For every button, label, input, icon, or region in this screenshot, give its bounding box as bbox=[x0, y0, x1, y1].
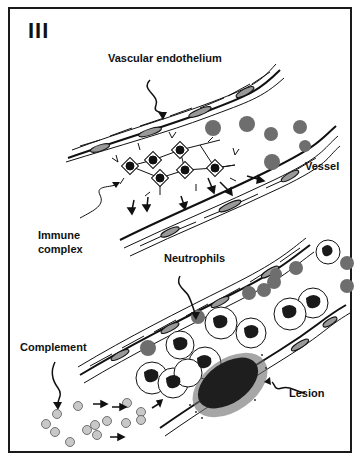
label-vessel: Vessel bbox=[305, 160, 339, 173]
label-immune-complex-line1: Immune bbox=[38, 229, 80, 242]
red-blood-cells-upper bbox=[205, 116, 311, 170]
label-vascular-endothelium: Vascular endothelium bbox=[108, 52, 222, 65]
label-complement: Complement bbox=[20, 341, 87, 354]
panel-number: III bbox=[28, 18, 49, 44]
label-immune-complex-line2: complex bbox=[38, 243, 83, 256]
complement-pointer-arrow bbox=[52, 362, 60, 406]
immune-complex-lattice bbox=[112, 132, 239, 196]
label-neutrophils: Neutrophils bbox=[164, 252, 225, 265]
label-lesion: Lesion bbox=[289, 387, 324, 400]
endothelium-pointer-arrow bbox=[147, 80, 163, 115]
immune-complex-pointer-arrow bbox=[80, 184, 118, 218]
neutrophils-pointer-arrow bbox=[179, 276, 196, 316]
